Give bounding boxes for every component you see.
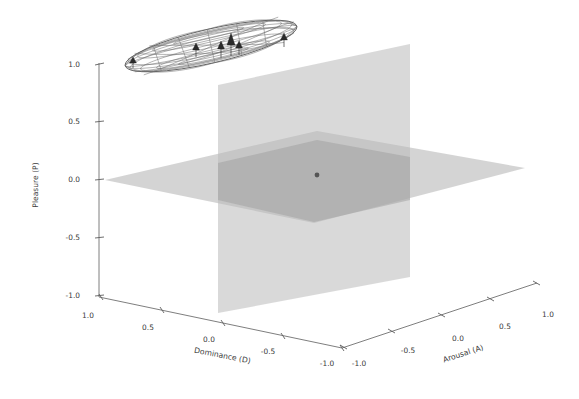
z-tick-label: 0.5 [68, 117, 80, 126]
y-axis-title: Arousal (A) [442, 343, 485, 365]
figure-3d-scatter: 1.0 0.5 0.0 -0.5 -1.0 1.0 0.5 0.0 -0.5 -… [0, 0, 579, 399]
z-tick-label: 1.0 [68, 60, 80, 69]
x-axis-title: Dominance (D) [193, 346, 251, 366]
plane-group [105, 44, 525, 313]
x-tick-label: -1.0 [320, 359, 335, 368]
y-tick-label: -1.0 [352, 359, 367, 368]
z-axis-title: Pleasure (P) [31, 162, 40, 207]
z-tick-marks [95, 63, 104, 296]
z-tick-label: -0.5 [66, 233, 81, 242]
y-tick-label: 0.0 [452, 334, 464, 343]
origin-marker-dot [315, 173, 320, 178]
y-tick-label: 0.5 [499, 322, 511, 331]
z-tick-label: 0.0 [68, 175, 80, 184]
x-tick-label: 1.0 [82, 311, 94, 320]
y-tick-label: -0.5 [401, 346, 416, 355]
plot-canvas: 1.0 0.5 0.0 -0.5 -1.0 1.0 0.5 0.0 -0.5 -… [0, 0, 579, 399]
x-tick-label: 0.5 [142, 323, 154, 332]
y-axis-line [342, 283, 537, 348]
x-tick-label: 0.0 [203, 335, 215, 344]
y-tick-label: 1.0 [542, 310, 554, 319]
ellipsoid-wireframe [121, 9, 300, 83]
z-tick-label: -1.0 [66, 291, 81, 300]
x-tick-label: -0.5 [261, 347, 276, 356]
z-tick-labels: 1.0 0.5 0.0 -0.5 -1.0 [66, 60, 81, 300]
